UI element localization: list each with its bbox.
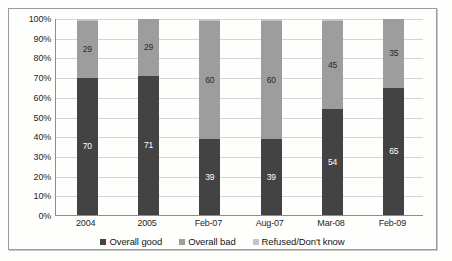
- legend-swatch-icon: [179, 239, 185, 245]
- bar-value-label: 39: [205, 173, 214, 182]
- y-axis-tick-label: 80%: [11, 54, 51, 63]
- legend-swatch-icon: [100, 239, 106, 245]
- stacked-bar[interactable]: 3565: [383, 19, 404, 215]
- stacked-bar[interactable]: 6039: [261, 19, 282, 215]
- bar-value-label: 29: [83, 45, 92, 54]
- legend-swatch-icon: [253, 239, 259, 245]
- y-axis-tick-label: 60%: [11, 94, 51, 103]
- bar-segment[interactable]: 35: [383, 19, 404, 88]
- bar-value-label: 60: [267, 76, 276, 85]
- bar-value-label: 54: [328, 158, 337, 167]
- bar-group: 2971: [121, 19, 175, 215]
- bar-group: 3565: [366, 19, 420, 215]
- y-axis-tick-label: 40%: [11, 133, 51, 142]
- bar-segment[interactable]: 65: [383, 88, 404, 215]
- y-axis-tick-label: 10%: [11, 192, 51, 201]
- legend-item[interactable]: Overall good: [100, 237, 162, 247]
- legend-label: Refused/Don't know: [262, 237, 345, 247]
- bar-group: 6039: [244, 19, 298, 215]
- bar-segment[interactable]: 60: [199, 21, 220, 139]
- y-axis: 0%10%20%30%40%50%60%70%80%90%100%: [9, 19, 51, 216]
- legend-item[interactable]: Overall bad: [179, 237, 235, 247]
- bar-value-label: 65: [389, 147, 398, 156]
- y-axis-tick-label: 70%: [11, 74, 51, 83]
- chart-frame: 0%10%20%30%40%50%60%70%80%90%100% 297029…: [8, 8, 437, 250]
- chart-legend: Overall goodOverall badRefused/Don't kno…: [9, 237, 436, 247]
- x-axis: 20042005Feb-07Aug-07Mar-08Feb-09: [55, 218, 423, 234]
- y-axis-tick-label: 0%: [11, 212, 51, 221]
- plot-area: 297029716039603945543565: [55, 19, 423, 216]
- bar-value-label: 71: [144, 141, 153, 150]
- bar-segment[interactable]: 60: [261, 21, 282, 139]
- y-axis-tick-label: 90%: [11, 35, 51, 44]
- y-axis-tick-label: 100%: [11, 15, 51, 24]
- bar-group: 6039: [182, 19, 236, 215]
- y-axis-tick-label: 50%: [11, 114, 51, 123]
- x-axis-tick-label: Mar-08: [304, 218, 358, 229]
- bar-segment[interactable]: 54: [322, 109, 343, 215]
- x-axis-tick-label: Feb-09: [365, 218, 419, 229]
- bar-value-label: 39: [267, 173, 276, 182]
- x-axis-tick-label: Feb-07: [181, 218, 235, 229]
- bar-segment[interactable]: 70: [77, 78, 98, 215]
- bar-segment[interactable]: 39: [261, 139, 282, 215]
- legend-label: Overall bad: [188, 237, 235, 247]
- bar-value-label: 35: [389, 49, 398, 58]
- y-axis-tick-label: 20%: [11, 173, 51, 182]
- bar-segment[interactable]: 29: [138, 19, 159, 76]
- bar-segment[interactable]: 71: [138, 76, 159, 215]
- bar-segment[interactable]: 45: [322, 21, 343, 109]
- bar-group: 2970: [60, 19, 114, 215]
- bar-value-label: 45: [328, 61, 337, 70]
- y-axis-tick-label: 30%: [11, 153, 51, 162]
- stacked-bar[interactable]: 2971: [138, 19, 159, 215]
- bar-value-label: 70: [83, 142, 92, 151]
- bar-segment[interactable]: 29: [77, 21, 98, 78]
- x-axis-tick-label: 2004: [59, 218, 113, 229]
- stacked-bar[interactable]: 4554: [322, 19, 343, 215]
- bar-segment[interactable]: 39: [199, 139, 220, 215]
- bar-group: 4554: [305, 19, 359, 215]
- bar-value-label: 29: [144, 43, 153, 52]
- x-axis-tick-label: 2005: [120, 218, 174, 229]
- legend-label: Overall good: [109, 237, 162, 247]
- bar-value-label: 60: [205, 76, 214, 85]
- legend-item[interactable]: Refused/Don't know: [253, 237, 345, 247]
- stacked-bar[interactable]: 2970: [77, 19, 98, 215]
- x-axis-tick-label: Aug-07: [243, 218, 297, 229]
- stacked-bar[interactable]: 6039: [199, 19, 220, 215]
